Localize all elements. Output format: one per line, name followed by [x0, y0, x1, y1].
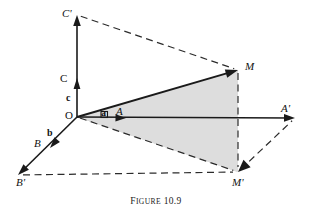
arrowhead-C — [74, 78, 81, 89]
axis-line-a — [77, 117, 291, 118]
label-B-prime: B' — [16, 177, 25, 188]
dashed-Cprime-to-M — [81, 16, 234, 68]
caption-number: 10.9 — [164, 196, 182, 206]
dashed-Bprime-to-Mprime — [23, 172, 233, 175]
dashed-Mprime-to-Aprime — [241, 121, 292, 169]
label-B: B — [34, 138, 41, 149]
label-M-prime: M' — [232, 177, 244, 188]
shaded-face-lower — [77, 70, 238, 172]
label-C-prime: C' — [62, 8, 72, 19]
label-A: A — [116, 106, 123, 117]
label-M: M — [245, 61, 254, 72]
vector-diagram — [0, 0, 312, 220]
figure-caption: FIGURE 10.9 — [0, 196, 312, 206]
caption-igure: IGURE — [136, 197, 161, 206]
label-C: C — [60, 73, 67, 84]
arrowhead-Mprime — [238, 160, 251, 172]
arrowhead-Aprime — [284, 114, 295, 122]
figure-container: C' C c O b B B' a A A' M M' FIGURE 10.9 — [0, 0, 312, 220]
label-vector-b: b — [47, 128, 53, 138]
label-origin: O — [65, 110, 73, 121]
label-A-prime: A' — [281, 103, 290, 114]
arrowhead-Cprime — [73, 15, 81, 26]
label-vector-c: c — [66, 93, 70, 103]
axis-line-b — [21, 117, 77, 172]
label-vector-a: a — [101, 108, 106, 118]
